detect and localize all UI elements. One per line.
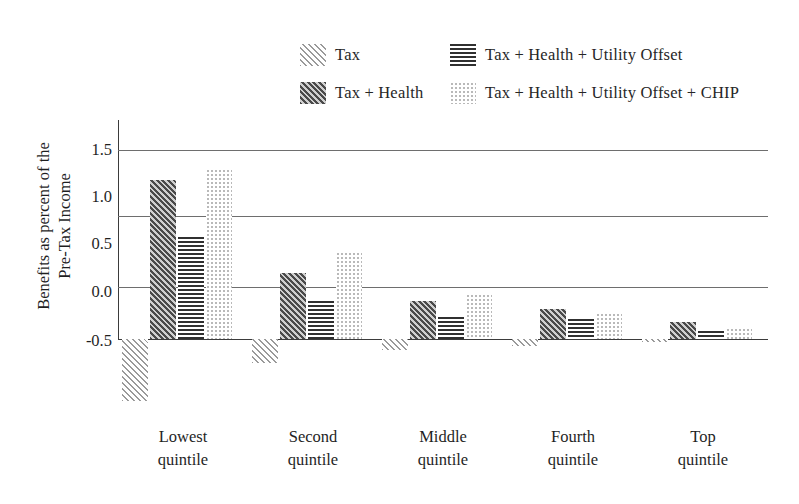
x-tick-label: Top quintile bbox=[638, 425, 768, 471]
bar bbox=[178, 237, 204, 339]
legend-label-tax: Tax bbox=[335, 45, 360, 65]
legend-item-tax-health: Tax + Health bbox=[300, 82, 450, 104]
legend-item-tax-health-utility: Tax + Health + Utility Offset bbox=[450, 44, 770, 66]
bar bbox=[698, 331, 724, 339]
legend-swatch-tax-health-icon bbox=[300, 82, 326, 104]
bar bbox=[466, 294, 492, 340]
legend-item-tax: Tax bbox=[300, 44, 450, 66]
y-tick-label: -0.5 bbox=[60, 333, 112, 349]
legend-label-tax-health: Tax + Health bbox=[335, 83, 423, 103]
plot-area bbox=[118, 120, 768, 412]
x-tick-label: Second quintile bbox=[248, 425, 378, 471]
legend-swatch-tax-health-utility-icon bbox=[450, 44, 476, 66]
bar bbox=[670, 322, 696, 339]
bar bbox=[568, 319, 594, 339]
x-tick-label: Lowest quintile bbox=[118, 425, 248, 471]
y-axis-line bbox=[118, 120, 119, 339]
bar bbox=[336, 252, 362, 339]
legend-label-tax-health-utility: Tax + Health + Utility Offset bbox=[485, 45, 683, 65]
y-tick-label: 1.0 bbox=[60, 189, 112, 205]
bar bbox=[150, 180, 176, 339]
x-tick-label: Middle quintile bbox=[378, 425, 508, 471]
axis-baseline bbox=[118, 339, 768, 340]
bar bbox=[596, 313, 622, 340]
legend-item-tax-health-utility-chip: Tax + Health + Utility Offset + CHIP bbox=[450, 82, 770, 104]
gridline bbox=[118, 150, 768, 151]
chart-legend: Tax Tax + Health + Utility Offset Tax + … bbox=[300, 36, 770, 112]
y-tick-label: 0.5 bbox=[60, 236, 112, 252]
bar bbox=[252, 339, 278, 363]
bar bbox=[726, 328, 752, 339]
bar bbox=[438, 317, 464, 339]
y-tick-label: 0.0 bbox=[60, 284, 112, 300]
legend-swatch-tax-icon bbox=[300, 44, 326, 66]
bar bbox=[280, 273, 306, 339]
bar bbox=[206, 169, 232, 340]
bar bbox=[308, 301, 334, 339]
bar bbox=[642, 339, 668, 342]
bar bbox=[122, 339, 148, 401]
bar-chart: Tax Tax + Health + Utility Offset Tax + … bbox=[0, 0, 799, 504]
bar bbox=[382, 339, 408, 350]
legend-label-tax-health-utility-chip: Tax + Health + Utility Offset + CHIP bbox=[485, 83, 739, 103]
legend-swatch-tax-health-utility-chip-icon bbox=[450, 82, 476, 104]
bar bbox=[540, 309, 566, 339]
x-tick-label: Fourth quintile bbox=[508, 425, 638, 471]
bar bbox=[410, 301, 436, 339]
y-axis-tick-labels: 1.51.00.50.0-0.5 bbox=[60, 120, 112, 412]
x-axis-tick-labels: Lowest quintileSecond quintileMiddle qui… bbox=[118, 425, 768, 485]
bar bbox=[512, 339, 538, 346]
y-tick-label: 1.5 bbox=[60, 142, 112, 158]
